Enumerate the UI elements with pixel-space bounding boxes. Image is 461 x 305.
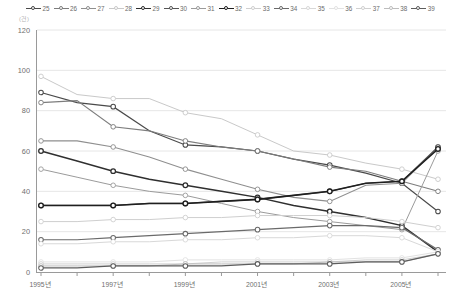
legend-label: 33 <box>263 5 270 12</box>
data-point-marker <box>39 139 44 144</box>
data-point-marker <box>111 203 116 208</box>
data-point-marker <box>39 241 44 246</box>
legend-item-39[interactable]: 39 <box>411 4 435 13</box>
legend-marker-icon <box>164 4 179 13</box>
data-point-marker <box>111 217 116 222</box>
data-point-marker <box>183 201 188 206</box>
data-point-marker <box>327 153 332 158</box>
data-point-marker <box>39 219 44 224</box>
data-point-marker <box>111 125 116 130</box>
data-point-marker <box>255 227 260 232</box>
x-axis-tick-label: 1997년 <box>89 279 135 289</box>
data-point-marker <box>400 219 405 224</box>
data-point-marker <box>183 231 188 236</box>
data-point-marker <box>183 193 188 198</box>
data-point-marker <box>327 262 332 267</box>
data-point-marker <box>255 213 260 218</box>
data-point-marker <box>183 139 188 144</box>
data-point-marker <box>39 74 44 79</box>
data-point-marker <box>436 189 441 194</box>
legend-label: 38 <box>400 5 407 12</box>
y-axis-tick-label: 0 <box>4 268 30 277</box>
legend-item-34[interactable]: 34 <box>274 4 298 13</box>
y-axis-tick-label: 80 <box>4 106 30 115</box>
series-35 <box>39 233 441 254</box>
data-point-marker <box>327 223 332 228</box>
legend-marker-icon <box>356 4 371 13</box>
data-point-marker <box>400 167 405 172</box>
legend-marker-icon <box>136 4 151 13</box>
series-30 <box>39 145 441 208</box>
y-axis-tick-label: 100 <box>4 66 30 75</box>
legend-label: 39 <box>428 5 435 12</box>
data-point-marker <box>436 225 441 230</box>
legend-marker-icon <box>54 4 69 13</box>
series-line <box>41 141 438 202</box>
data-point-marker <box>111 264 116 269</box>
legend-item-32[interactable]: 32 <box>219 4 243 13</box>
legend-item-27[interactable]: 27 <box>81 4 105 13</box>
data-point-marker <box>255 133 260 138</box>
legend-item-38[interactable]: 38 <box>384 4 408 13</box>
legend-item-37[interactable]: 37 <box>356 4 380 13</box>
legend-item-35[interactable]: 35 <box>301 4 325 13</box>
legend-marker-icon <box>26 4 41 13</box>
legend-label: 36 <box>345 5 352 12</box>
legend-marker-icon <box>411 4 426 13</box>
data-point-marker <box>111 239 116 244</box>
legend-item-33[interactable]: 33 <box>246 4 270 13</box>
data-point-marker <box>39 149 44 154</box>
legend-item-28[interactable]: 28 <box>109 4 133 13</box>
legend-item-25[interactable]: 25 <box>26 4 50 13</box>
data-point-marker <box>39 90 44 95</box>
series-line <box>41 101 438 192</box>
chart-legend: 252627282930313233343536373839 <box>0 0 461 16</box>
data-point-marker <box>436 252 441 257</box>
data-point-marker <box>111 96 116 101</box>
legend-marker-icon <box>81 4 96 13</box>
legend-marker-icon <box>329 4 344 13</box>
data-point-marker <box>255 197 260 202</box>
series-39 <box>39 252 441 271</box>
legend-item-36[interactable]: 36 <box>329 4 353 13</box>
x-axis-tick-label: 1999년 <box>161 279 207 289</box>
data-point-marker <box>183 183 188 188</box>
data-point-marker <box>39 203 44 208</box>
chart-root: 252627282930313233343536373839 (건) 02040… <box>0 0 461 305</box>
legend-item-31[interactable]: 31 <box>191 4 215 13</box>
y-axis-tick-label: 20 <box>4 227 30 236</box>
data-point-marker <box>400 260 405 265</box>
x-axis-tick-label: 1995년 <box>17 279 63 289</box>
legend-item-30[interactable]: 30 <box>164 4 188 13</box>
data-point-marker <box>183 237 188 242</box>
legend-marker-icon <box>274 4 289 13</box>
legend-marker-icon <box>109 4 124 13</box>
series-25 <box>39 90 441 214</box>
x-axis-tick-label: 2003년 <box>306 279 352 289</box>
data-point-marker <box>255 262 260 267</box>
x-axis-tick-label: 2001년 <box>234 279 280 289</box>
data-point-marker <box>39 266 44 271</box>
series-line <box>41 151 438 230</box>
legend-label: 26 <box>70 5 77 12</box>
legend-marker-icon <box>384 4 399 13</box>
legend-marker-icon <box>219 4 234 13</box>
legend-marker-icon <box>246 4 261 13</box>
series-28 <box>39 74 441 181</box>
legend-label: 27 <box>98 5 105 12</box>
legend-item-29[interactable]: 29 <box>136 4 160 13</box>
legend-item-26[interactable]: 26 <box>54 4 78 13</box>
legend-label: 31 <box>208 5 215 12</box>
data-point-marker <box>436 209 441 214</box>
data-point-marker <box>255 149 260 154</box>
data-point-marker <box>400 179 405 184</box>
data-point-marker <box>327 189 332 194</box>
series-line <box>41 252 438 262</box>
data-point-marker <box>183 215 188 220</box>
y-axis-tick-label: 60 <box>4 147 30 156</box>
legend-marker-icon <box>301 4 316 13</box>
data-point-marker <box>255 187 260 192</box>
data-point-marker <box>111 169 116 174</box>
data-point-marker <box>327 165 332 170</box>
legend-label: 35 <box>318 5 325 12</box>
